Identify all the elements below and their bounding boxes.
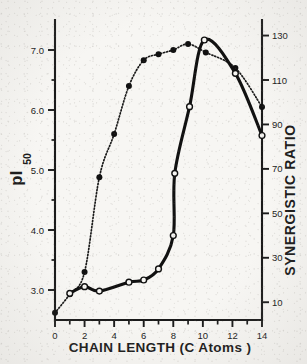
data-point-open-circle: [170, 233, 176, 239]
data-point-filled-circle: [203, 49, 209, 55]
axis-tick-label: 90: [272, 119, 283, 130]
data-point-open-circle: [172, 170, 178, 176]
data-point-open-circle: [141, 277, 147, 283]
axis-tick-label: 130: [272, 30, 288, 41]
x-axis-title-text: CHAIN LENGTH (C Atoms ): [69, 340, 252, 355]
axis-tick-label: 70: [272, 163, 283, 174]
axis-tick-label: 110: [272, 75, 287, 86]
left-axis-title-text: pI: [7, 170, 25, 186]
axis-tick-label: 7.0: [31, 45, 44, 56]
data-point-filled-circle: [156, 51, 162, 57]
axis-tick-label: 0: [52, 330, 57, 341]
data-point-open-circle: [126, 279, 132, 285]
data-point-filled-circle: [170, 47, 176, 53]
axis-tick-label: 30: [272, 252, 283, 263]
axis-tick-label: 4.0: [31, 225, 44, 236]
pi50-data-markers: [52, 41, 265, 316]
data-point-filled-circle: [96, 174, 102, 180]
data-point-open-circle: [232, 70, 238, 76]
data-point-open-circle: [82, 284, 88, 290]
data-point-open-circle: [187, 104, 193, 110]
axis-tick-label: 3.0: [31, 285, 44, 296]
data-point-filled-circle: [185, 41, 191, 47]
left-axis-tick-labels: 3.04.05.06.07.0: [31, 45, 44, 296]
data-point-filled-circle: [111, 131, 117, 137]
data-point-open-circle: [259, 133, 265, 139]
data-point-filled-circle: [82, 269, 88, 275]
data-point-open-circle: [201, 37, 207, 43]
right-axis-title-text: SYNERGISTIC RATIO: [282, 124, 298, 276]
left-axis-title: pI 50: [7, 153, 33, 186]
data-point-open-circle: [96, 288, 102, 294]
axis-tick-label: 14: [257, 330, 268, 341]
axis-tick-label: 6.0: [31, 105, 44, 116]
axis-tick-label: 10: [272, 297, 283, 308]
left-axis-title-subscript: 50: [21, 153, 33, 165]
axis-tick-label: 50: [272, 208, 283, 219]
synergistic-ratio-curve: [70, 39, 262, 293]
data-point-filled-circle: [259, 104, 265, 110]
data-point-filled-circle: [126, 83, 132, 89]
data-point-open-circle: [156, 266, 162, 272]
data-point-filled-circle: [141, 57, 147, 63]
figure-panel: 3.04.05.06.07.0 1030507090110130 0246810…: [0, 0, 307, 364]
data-point-filled-circle: [52, 310, 58, 316]
axis-tick-label: 5.0: [31, 165, 44, 176]
chart-canvas: 3.04.05.06.07.0 1030507090110130 0246810…: [0, 0, 307, 364]
data-point-open-circle: [67, 290, 73, 296]
x-axis-ticks: [55, 321, 262, 327]
